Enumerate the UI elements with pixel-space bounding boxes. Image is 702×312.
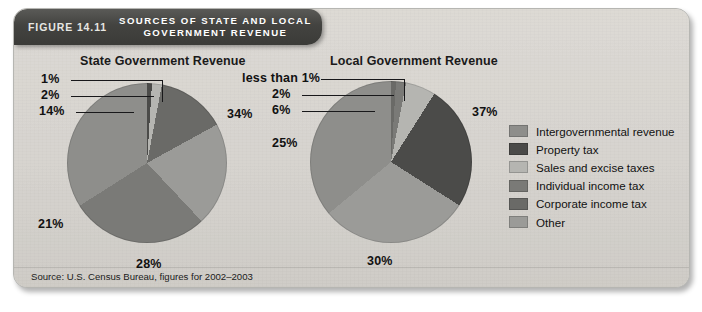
legend-label: Intergovernmental revenue bbox=[536, 125, 675, 138]
state-label-21pct: 21% bbox=[38, 217, 64, 231]
legend-swatch-sales-and-excise-taxes bbox=[509, 161, 528, 173]
leader-line-state-3 bbox=[76, 112, 134, 113]
local-label-25pct: 25% bbox=[272, 136, 298, 150]
legend-item: Property tax bbox=[509, 140, 675, 158]
source-divider bbox=[14, 267, 689, 268]
legend-item: Intergovernmental revenue bbox=[509, 122, 675, 140]
leader-line-local-1 bbox=[321, 79, 405, 80]
legend-item: Individual income tax bbox=[509, 177, 675, 195]
local-label-37pct: 37% bbox=[472, 105, 498, 119]
chart-legend: Intergovernmental revenue Property tax S… bbox=[509, 122, 675, 231]
leader-line-local-3 bbox=[302, 111, 375, 112]
legend-swatch-intergovernmental-revenue bbox=[509, 125, 528, 137]
leader-line-state-2 bbox=[71, 96, 154, 97]
legend-swatch-corporate-income-tax bbox=[509, 198, 528, 210]
state-pie-chart bbox=[67, 83, 227, 243]
legend-item: Sales and excise taxes bbox=[509, 158, 675, 176]
local-label-1pct: less than 1% bbox=[242, 71, 320, 85]
leader-line-local-2 bbox=[302, 95, 394, 96]
state-label-1pct: 1% bbox=[41, 72, 59, 86]
legend-swatch-other bbox=[509, 216, 528, 228]
leader-line-state-1 bbox=[71, 80, 163, 81]
legend-label: Sales and excise taxes bbox=[536, 161, 655, 174]
state-label-14pct: 14% bbox=[39, 104, 65, 118]
legend-label: Corporate income tax bbox=[536, 197, 647, 210]
figure-header: FIGURE 14.11 SOURCES OF STATE AND LOCAL … bbox=[14, 9, 322, 45]
state-label-28pct: 28% bbox=[136, 257, 162, 271]
state-chart-title: State Government Revenue bbox=[80, 54, 246, 68]
legend-label: Property tax bbox=[536, 143, 599, 156]
local-label-6pct: 6% bbox=[272, 103, 290, 117]
figure-title: SOURCES OF STATE AND LOCAL GOVERNMENT RE… bbox=[119, 15, 312, 39]
local-chart-title: Local Government Revenue bbox=[330, 54, 498, 68]
legend-item: Corporate income tax bbox=[509, 195, 675, 213]
legend-swatch-property-tax bbox=[509, 143, 528, 155]
legend-label: Other bbox=[536, 216, 565, 229]
figure-number: FIGURE 14.11 bbox=[28, 21, 107, 33]
leader-line-state-1-vert bbox=[162, 80, 163, 102]
leader-line-local-1-vert bbox=[404, 79, 405, 101]
source-note: Source: U.S. Census Bureau, figures for … bbox=[31, 271, 253, 282]
local-label-30pct: 30% bbox=[367, 254, 393, 268]
local-label-2pct: 2% bbox=[272, 87, 290, 101]
state-label-2pct: 2% bbox=[41, 88, 59, 102]
legend-label: Individual income tax bbox=[536, 179, 644, 192]
local-pie-chart bbox=[310, 81, 472, 243]
state-label-34pct: 34% bbox=[227, 107, 253, 121]
figure-card: FIGURE 14.11 SOURCES OF STATE AND LOCAL … bbox=[13, 8, 690, 288]
legend-swatch-individual-income-tax bbox=[509, 180, 528, 192]
legend-item: Other bbox=[509, 213, 675, 231]
